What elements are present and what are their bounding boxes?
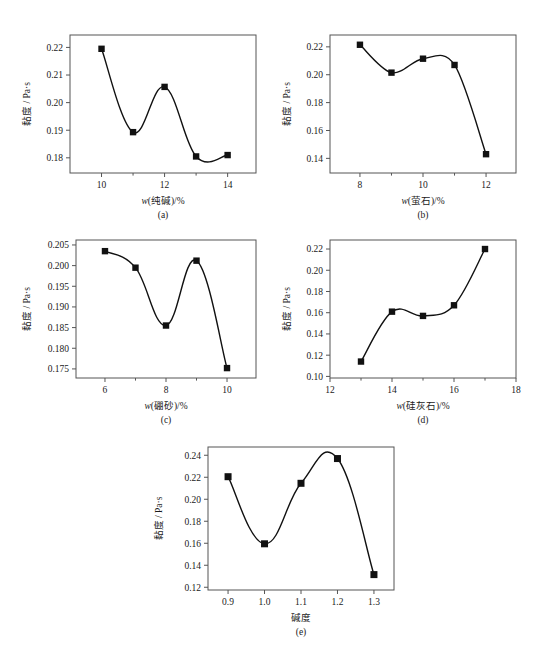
- y-tick-label: 0.14: [306, 154, 323, 164]
- y-tick-label: 0.12: [306, 351, 323, 361]
- chart-svg-d: 0.100.120.140.160.180.200.2212141618黏度 /…: [278, 230, 528, 430]
- y-tick-label: 0.20: [184, 495, 201, 505]
- y-tick-label: 0.180: [48, 344, 70, 354]
- data-point-marker: [334, 455, 341, 462]
- data-point-marker: [451, 302, 457, 308]
- data-point-marker: [389, 308, 395, 314]
- y-tick-label: 0.22: [46, 43, 63, 53]
- y-tick-label: 0.175: [48, 364, 70, 374]
- chart-panel-e: 0.120.140.160.180.200.220.240.91.01.11.2…: [148, 435, 408, 650]
- x-tick-label: 12: [160, 180, 170, 190]
- chart-panel-b: 0.140.160.180.200.2281012黏度 / Pa·sw(萤石)/…: [278, 25, 528, 225]
- x-tick-label: 10: [97, 180, 107, 190]
- y-tick-label: 0.14: [306, 329, 323, 339]
- y-tick-label: 0.18: [306, 287, 323, 297]
- fitted-curve: [228, 452, 374, 575]
- chart-svg-c: 0.1750.1800.1850.1900.1950.2000.2056810黏…: [18, 230, 268, 430]
- panel-caption: (d): [417, 415, 428, 426]
- data-point-marker: [193, 153, 199, 159]
- y-axis-title: 黏度 / Pa·s: [153, 496, 164, 540]
- y-axis-title: 黏度 / Pa·s: [281, 82, 292, 126]
- x-tick-label: 14: [223, 180, 233, 190]
- x-tick-label: 1.1: [295, 597, 307, 607]
- x-axis-title: w(硅灰石)/%: [396, 400, 449, 412]
- y-tick-label: 0.18: [306, 98, 323, 108]
- y-tick-label: 0.185: [48, 323, 70, 333]
- data-point-marker: [132, 264, 138, 270]
- panel-caption: (a): [158, 210, 169, 221]
- y-tick-label: 0.19: [46, 126, 63, 136]
- y-tick-label: 0.12: [184, 583, 201, 593]
- data-point-marker: [163, 322, 169, 328]
- data-point-marker: [224, 365, 230, 371]
- data-point-marker: [261, 540, 268, 547]
- y-tick-label: 0.21: [46, 70, 63, 80]
- panel-caption: (e): [296, 627, 307, 638]
- x-tick-label: 0.9: [222, 597, 234, 607]
- data-point-marker: [357, 42, 363, 48]
- y-tick-label: 0.20: [46, 98, 63, 108]
- data-point-marker: [451, 62, 457, 68]
- x-tick-label: 10: [418, 180, 428, 190]
- y-axis-title: 黏度 / Pa·s: [21, 287, 32, 331]
- data-point-marker: [370, 571, 377, 578]
- chart-panel-a: 0.180.190.200.210.22101214黏度 / Pa·sw(纯碱)…: [18, 25, 268, 225]
- y-tick-label: 0.195: [48, 282, 70, 292]
- data-point-marker: [420, 313, 426, 319]
- data-point-marker: [130, 129, 136, 135]
- data-point-marker: [388, 69, 394, 75]
- fitted-curve: [102, 49, 228, 162]
- x-tick-label: 1.2: [332, 597, 344, 607]
- chart-panel-d: 0.100.120.140.160.180.200.2212141618黏度 /…: [278, 230, 528, 430]
- y-tick-label: 0.16: [306, 308, 323, 318]
- y-tick-label: 0.20: [306, 70, 323, 80]
- plot-frame: [208, 447, 394, 590]
- x-tick-label: 18: [511, 385, 521, 395]
- panel-caption: (b): [417, 210, 428, 221]
- fitted-curve: [105, 251, 227, 368]
- data-point-marker: [298, 480, 305, 487]
- x-tick-label: 14: [387, 385, 397, 395]
- x-tick-label: 6: [103, 385, 108, 395]
- x-axis-title: 碱度: [291, 612, 311, 623]
- x-tick-label: 16: [449, 385, 459, 395]
- data-point-marker: [193, 257, 199, 263]
- y-tick-label: 0.16: [306, 126, 323, 136]
- x-tick-label: 1.0: [259, 597, 271, 607]
- y-axis-title: 黏度 / Pa·s: [21, 82, 32, 126]
- data-point-marker: [224, 152, 230, 158]
- plot-frame: [76, 240, 256, 378]
- x-axis-title: w(硼砂)/%: [144, 400, 187, 412]
- x-tick-label: 12: [325, 385, 335, 395]
- plot-frame: [330, 240, 516, 378]
- y-tick-label: 0.16: [184, 539, 201, 549]
- y-tick-label: 0.205: [48, 240, 70, 250]
- x-tick-label: 8: [358, 180, 363, 190]
- x-tick-label: 12: [481, 180, 491, 190]
- chart-svg-b: 0.140.160.180.200.2281012黏度 / Pa·sw(萤石)/…: [278, 25, 528, 225]
- x-axis-title: w(纯碱)/%: [141, 195, 184, 207]
- chart-svg-a: 0.180.190.200.210.22101214黏度 / Pa·sw(纯碱)…: [18, 25, 268, 225]
- data-point-marker: [102, 248, 108, 254]
- y-tick-label: 0.22: [306, 42, 323, 52]
- data-point-marker: [98, 46, 104, 52]
- y-tick-label: 0.20: [306, 266, 323, 276]
- y-axis-title: 黏度 / Pa·s: [281, 287, 292, 331]
- y-tick-label: 0.18: [184, 517, 201, 527]
- x-tick-label: 10: [222, 385, 232, 395]
- y-tick-label: 0.10: [306, 372, 323, 382]
- chart-svg-e: 0.120.140.160.180.200.220.240.91.01.11.2…: [148, 435, 408, 650]
- y-tick-label: 0.22: [306, 244, 323, 254]
- panel-caption: (c): [161, 415, 172, 426]
- x-axis-title: w(萤石)/%: [401, 195, 444, 207]
- data-point-marker: [225, 473, 232, 480]
- y-tick-label: 0.22: [184, 473, 201, 483]
- y-tick-label: 0.200: [48, 261, 70, 271]
- data-point-marker: [483, 151, 489, 157]
- figure-container: 0.180.190.200.210.22101214黏度 / Pa·sw(纯碱)…: [0, 0, 543, 653]
- y-tick-label: 0.24: [184, 451, 201, 461]
- data-point-marker: [358, 358, 364, 364]
- chart-panel-c: 0.1750.1800.1850.1900.1950.2000.2056810黏…: [18, 230, 268, 430]
- data-point-marker: [482, 246, 488, 252]
- y-tick-label: 0.18: [46, 153, 63, 163]
